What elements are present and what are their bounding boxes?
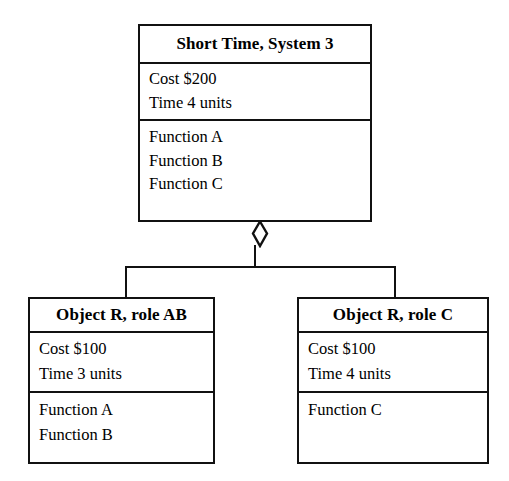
attribute-item: Time 3 units [39, 366, 213, 383]
class-box-short-time-system-3[interactable]: Short Time, System 3 Cost $200 Time 4 un… [138, 24, 372, 222]
class-name-compartment: Object R, role AB [30, 299, 213, 333]
class-attributes-compartment: Cost $100 Time 3 units [30, 333, 213, 393]
class-operations-compartment: Function A Function B [30, 393, 213, 443]
operation-item: Function B [149, 153, 370, 170]
aggregation-diamond-icon [245, 220, 275, 248]
diagram-canvas: Short Time, System 3 Cost $200 Time 4 un… [0, 0, 509, 481]
attribute-item: Time 4 units [308, 366, 487, 383]
operation-item: Function A [39, 402, 213, 419]
class-name-label: Short Time, System 3 [140, 26, 370, 62]
class-name-label: Object R, role AB [30, 299, 213, 331]
class-attributes-compartment: Cost $100 Time 4 units [299, 333, 487, 393]
attribute-item: Cost $200 [149, 71, 370, 88]
operation-item: Function C [308, 402, 487, 419]
class-box-object-r-role-ab[interactable]: Object R, role AB Cost $100 Time 3 units… [28, 297, 215, 464]
class-operations-compartment: Function C [299, 393, 487, 419]
class-name-compartment: Object R, role C [299, 299, 487, 333]
connector-leg-left [125, 266, 127, 298]
connector-leg-right [394, 266, 396, 298]
class-operations-compartment: Function A Function B Function C [140, 121, 370, 193]
class-name-compartment: Short Time, System 3 [140, 26, 370, 64]
attribute-item: Cost $100 [39, 341, 213, 358]
connector-stem [254, 245, 256, 267]
class-box-object-r-role-c[interactable]: Object R, role C Cost $100 Time 4 units … [297, 297, 489, 464]
attribute-item: Cost $100 [308, 341, 487, 358]
operation-item: Function C [149, 176, 370, 193]
class-name-label: Object R, role C [299, 299, 487, 331]
connector-fork-bar [125, 266, 396, 268]
operation-item: Function A [149, 129, 370, 146]
class-attributes-compartment: Cost $200 Time 4 units [140, 64, 370, 121]
operation-item: Function B [39, 427, 213, 444]
attribute-item: Time 4 units [149, 95, 370, 112]
